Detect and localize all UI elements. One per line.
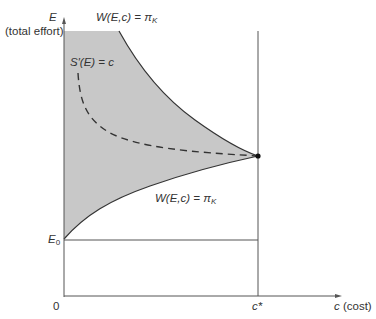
lower-curve-label-text: W(E,c) = π: [155, 192, 211, 204]
upper-curve-label-text: W(E,c) = π: [96, 11, 152, 23]
x-axis-label-group: c (cost): [334, 301, 372, 313]
intersection-point: [255, 153, 260, 158]
e0-label-sub: 0: [56, 238, 60, 247]
e0-label-base: E: [48, 233, 56, 245]
x-axis-symbol: c: [334, 300, 340, 312]
origin-label: 0: [53, 301, 59, 313]
y-axis-symbol: E: [49, 12, 57, 24]
lower-curve-label: W(E,c) = πK: [155, 193, 216, 206]
dashed-curve-label: S′(E) = c: [70, 57, 114, 69]
x-axis-label: (cost): [343, 300, 372, 312]
upper-curve-label-sub: K: [152, 16, 157, 25]
cstar-label: c*: [252, 301, 262, 313]
y-axis-label: (total effort): [5, 26, 64, 38]
y-axis-arrow-icon: [62, 17, 66, 24]
upper-curve-label: W(E,c) = πK: [96, 12, 157, 25]
x-axis-arrow-icon: [335, 294, 342, 298]
lower-curve-label-sub: K: [211, 197, 216, 206]
e0-label: E0: [48, 234, 60, 247]
diagram-canvas: [0, 0, 376, 319]
